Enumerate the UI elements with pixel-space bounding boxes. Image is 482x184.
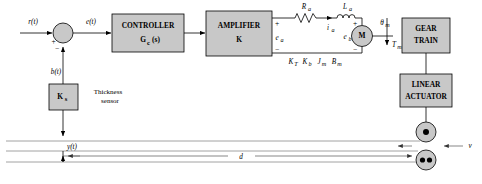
back-emf-minus-terminal: − bbox=[353, 45, 357, 54]
controller-transfer-function-argument: (s) bbox=[152, 35, 160, 44]
armature-voltage-plus-terminal: + bbox=[275, 19, 279, 28]
motor-param-bm-symbol: B bbox=[332, 58, 337, 66]
thickness-sensor-name-line2: sensor bbox=[101, 97, 120, 105]
amplifier-block: AMPLIFIER K bbox=[206, 11, 272, 56]
motor-angle-label: θ bbox=[380, 19, 384, 27]
motor-torque-subscript: m bbox=[397, 43, 402, 50]
back-emf-plus-terminal: + bbox=[353, 19, 357, 28]
motor-param-bm-subscript: m bbox=[337, 60, 342, 67]
armature-voltage-subscript: a bbox=[280, 36, 283, 43]
top-roller bbox=[416, 122, 436, 142]
feedback-signal-label: b(t) bbox=[51, 68, 62, 76]
amplifier-gain-symbol: K bbox=[236, 35, 242, 44]
armature-inductance-subscript: a bbox=[349, 5, 352, 12]
thickness-sensor-block: K s bbox=[49, 84, 78, 110]
motor-param-jm-subscript: m bbox=[322, 60, 327, 67]
sensor-gain-symbol: K bbox=[57, 92, 63, 101]
armature-resistance-subscript: a bbox=[308, 5, 311, 12]
reference-input-label: r(t) bbox=[28, 18, 38, 26]
summing-junction bbox=[53, 23, 73, 43]
control-system-block-diagram: r(t) + − e(t) CONTROLLER G c (s) AMPLIFI… bbox=[0, 0, 482, 184]
controller-transfer-function-symbol: G bbox=[140, 35, 146, 44]
distance-label: d bbox=[239, 153, 243, 161]
dc-motor-symbol: M bbox=[352, 26, 373, 47]
sensor-gain-subscript: s bbox=[65, 95, 68, 102]
linear-actuator-title-line1: LINEAR bbox=[412, 80, 441, 89]
bottom-roller bbox=[416, 150, 436, 170]
armature-inductance-label: L bbox=[342, 3, 347, 11]
motor-letter-label: M bbox=[359, 31, 366, 40]
armature-current-label: i bbox=[327, 24, 329, 32]
linear-actuator-block: LINEAR ACTUATOR bbox=[400, 74, 452, 107]
gear-train-block: GEAR TRAIN bbox=[402, 18, 450, 53]
armature-inductor bbox=[332, 15, 362, 18]
linear-actuator-title-line2: ACTUATOR bbox=[405, 92, 447, 101]
armature-resistance-label: R bbox=[301, 3, 307, 11]
motor-parameters-group: K T K b J m B m bbox=[288, 58, 343, 67]
motor-param-kb-subscript: b bbox=[308, 60, 311, 67]
armature-return-wire bbox=[272, 47, 362, 54]
velocity-label: v bbox=[468, 142, 472, 150]
summing-junction-minus-sign: − bbox=[55, 44, 59, 53]
motor-torque-label: T bbox=[392, 41, 397, 49]
amplifier-block-title: AMPLIFIER bbox=[218, 21, 261, 30]
gear-train-title-line1: GEAR bbox=[415, 24, 437, 33]
armature-voltage-label: e bbox=[275, 34, 279, 42]
controller-block-title: CONTROLLER bbox=[122, 21, 175, 30]
back-emf-subscript: b bbox=[348, 35, 351, 42]
gear-train-title-line2: TRAIN bbox=[414, 36, 438, 45]
armature-current-subscript: a bbox=[331, 26, 334, 33]
armature-voltage-minus-terminal: − bbox=[275, 45, 279, 54]
armature-resistor bbox=[292, 14, 319, 23]
controller-block: CONTROLLER G c (s) bbox=[112, 14, 184, 52]
thickness-sensor-name-line1: Thickness bbox=[94, 88, 123, 96]
back-emf-label: e bbox=[343, 33, 347, 41]
controller-transfer-function-subscript: c bbox=[147, 39, 150, 46]
motor-angle-subscript: m bbox=[385, 21, 390, 28]
error-signal-label: e(t) bbox=[86, 18, 97, 26]
motor-param-kt-subscript: T bbox=[294, 60, 298, 67]
output-thickness-label: y(t) bbox=[66, 143, 78, 151]
